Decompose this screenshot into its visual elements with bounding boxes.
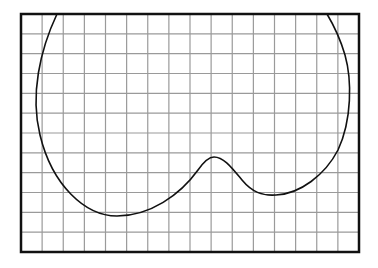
grid-lines bbox=[21, 14, 359, 252]
grid-diagram bbox=[0, 0, 378, 268]
closed-curve bbox=[36, 14, 350, 216]
